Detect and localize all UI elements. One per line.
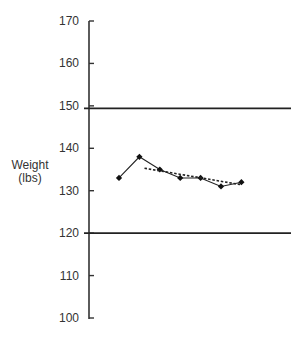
y-tick-label: 140 xyxy=(59,141,79,155)
weight-chart: 100110120130140150160170Weight(lbs) xyxy=(0,0,305,341)
y-tick-label: 150 xyxy=(59,99,79,113)
y-axis-label-line1: Weight xyxy=(11,158,49,172)
y-tick-label: 100 xyxy=(59,311,79,325)
data-point-marker xyxy=(218,183,224,189)
y-tick-label: 130 xyxy=(59,184,79,198)
trend-line xyxy=(145,168,242,185)
y-tick-label: 170 xyxy=(59,14,79,28)
y-axis-label-line2: (lbs) xyxy=(18,171,41,185)
y-tick-label: 110 xyxy=(60,269,79,283)
data-point-marker xyxy=(177,175,183,181)
y-tick-label: 160 xyxy=(59,56,79,70)
y-tick-label: 120 xyxy=(59,226,79,240)
